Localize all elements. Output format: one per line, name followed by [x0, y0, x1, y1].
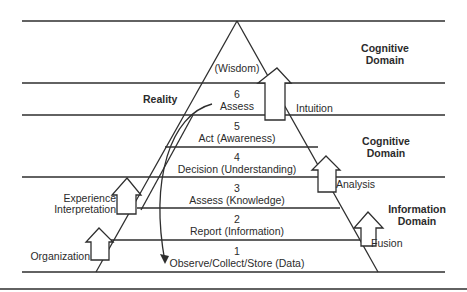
reality-label: Reality [143, 93, 177, 105]
level-3-label: Assess (Knowledge) [189, 194, 285, 206]
level-5-number: 5 [234, 120, 240, 132]
analysis-label: Analysis [336, 178, 375, 190]
level-2-label: Report (Information) [190, 225, 284, 237]
domain-cognitive-top-line1: Cognitive [361, 42, 409, 54]
level-6-number: 6 [234, 88, 240, 100]
level-6-label: Assess [220, 100, 254, 112]
intuition-label: Intuition [296, 102, 333, 114]
fusion-label: Fusion [371, 237, 403, 249]
organization-label: Organization [30, 250, 90, 262]
level-1-number: 1 [234, 245, 240, 257]
feedback-arrowhead [160, 254, 169, 264]
domain-cognitive-mid-line1: Cognitive [362, 135, 410, 147]
domain-information-line2: Domain [398, 215, 437, 227]
level-5-label: Act (Awareness) [199, 132, 276, 144]
domain-cognitive-mid-line2: Domain [367, 147, 406, 159]
interpretation-label: Interpretation [54, 203, 116, 215]
level-4-label: Decision (Understanding) [178, 163, 296, 175]
domain-information-line1: Information [388, 203, 446, 215]
level-4-number: 4 [234, 151, 240, 163]
domain-cognitive-top-line2: Domain [366, 54, 405, 66]
level-2-number: 2 [234, 213, 240, 225]
level-wisdom-label: (Wisdom) [215, 62, 260, 74]
level-3-number: 3 [234, 182, 240, 194]
intuition-arrow-icon [258, 68, 291, 120]
level-1-label: Observe/Collect/Store (Data) [170, 257, 305, 269]
